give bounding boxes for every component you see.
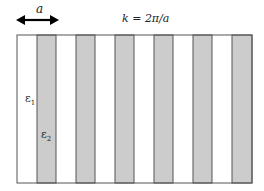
epsilon2-label: ε2: [41, 128, 51, 143]
gray-stripe: [76, 35, 95, 183]
epsilon1-subscript: 1: [31, 99, 35, 107]
gray-stripe: [232, 35, 252, 183]
gray-stripe: [193, 35, 212, 183]
period-label: a: [36, 2, 43, 16]
wavevector-label: k = 2π/a: [122, 12, 169, 25]
epsilon2-subscript: 2: [47, 135, 51, 143]
gray-stripes: [37, 35, 252, 183]
periodic-stripe-structure: [0, 0, 264, 191]
period-arrow-icon: [16, 15, 59, 25]
wavevector-text: k = 2π/a: [122, 12, 169, 25]
gray-stripe: [115, 35, 134, 183]
gray-stripe: [37, 35, 56, 183]
gray-stripe: [154, 35, 173, 183]
epsilon1-label: ε1: [25, 92, 35, 107]
